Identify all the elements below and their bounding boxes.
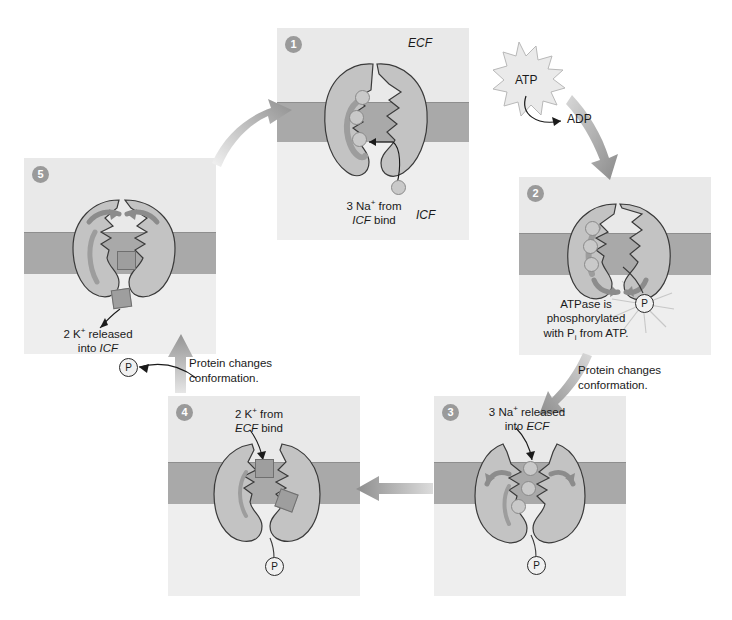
panel-3-caption-line1: 3 Na+ released	[489, 406, 565, 418]
panel-2-caption: ATPase is phosphorylated with Pi from AT…	[537, 297, 635, 343]
panel-4-caption-line1: 2 K+ from	[235, 408, 283, 420]
panel-2-na-ion-2	[583, 239, 598, 254]
panel-4-caption-line2: ECF bind	[235, 422, 283, 434]
conformation-text-left: Protein changes conformation.	[189, 356, 272, 386]
panel-4-caption: 2 K+ from ECF bind	[212, 406, 306, 436]
panel-1-na-ion-3	[352, 132, 367, 147]
panel-4-badge: 4	[176, 404, 193, 421]
panel-2-caption-line2: phosphorylated	[547, 312, 626, 324]
panel-3-na-ion-1	[523, 461, 538, 476]
panel-2-caption-line3: with Pi from ATP.	[543, 327, 628, 339]
pump-cycle-diagram: 1 ECF ICF 3 Na+ from ICF bind	[0, 0, 732, 620]
panel-1-na-ion-loose	[391, 180, 406, 195]
adp-label: ADP	[567, 112, 592, 126]
panel-5-caption-line1: 2 K+ released	[63, 328, 132, 340]
conformation-left-line2: conformation.	[189, 372, 259, 384]
panel-1-caption-line2: ICF bind	[352, 214, 395, 226]
panel-5-k-ion-1	[117, 251, 136, 270]
panel-2-caption-line1: ATPase is	[560, 298, 612, 310]
panel-1-protein	[317, 56, 433, 188]
panel-1-na-ion-2	[349, 110, 364, 125]
panel-1-caption: 3 Na+ from ICF bind	[329, 198, 419, 228]
conformation-right-line2: conformation.	[578, 379, 648, 391]
panel-3-caption-line2: into ECF	[505, 420, 550, 432]
panel-4-phosphate-label: P	[265, 557, 284, 576]
panel-1-caption-line1: 3 Na+ from	[346, 200, 401, 212]
panel-3-caption: 3 Na+ released into ECF	[472, 404, 582, 434]
panel-5-badge: 5	[32, 166, 49, 183]
atp-label: ATP	[515, 73, 537, 87]
panel-3-na-ion-3	[511, 499, 526, 514]
panel-2-phosphate-label: P	[635, 294, 654, 313]
panel-2-na-ion-3	[584, 257, 599, 272]
panel-5-caption-line2: into ICF	[78, 342, 118, 354]
released-phosphate-label: P	[119, 358, 138, 377]
conformation-text-right: Protein changes conformation.	[578, 363, 661, 393]
panel-3-phosphate-label: P	[527, 556, 546, 575]
panel-1-na-ion-1	[355, 90, 370, 105]
panel-5-k-ion-2	[111, 288, 132, 309]
conformation-left-line1: Protein changes	[189, 357, 272, 369]
panel-1-badge: 1	[285, 36, 302, 53]
panel-5-caption: 2 K+ released into ICF	[46, 326, 150, 354]
panel-2-na-ion-1	[585, 221, 600, 236]
panel-3-na-ion-2	[521, 481, 536, 496]
panel-2-badge: 2	[527, 185, 544, 202]
conformation-right-line1: Protein changes	[578, 364, 661, 376]
panel-3-badge: 3	[442, 404, 459, 421]
panel-2-protein	[562, 198, 674, 306]
panel-2-phosphate-stem	[621, 265, 655, 297]
panel-4-k-ion-1	[255, 459, 274, 478]
panel-1-ecf-label: ECF	[408, 36, 432, 50]
